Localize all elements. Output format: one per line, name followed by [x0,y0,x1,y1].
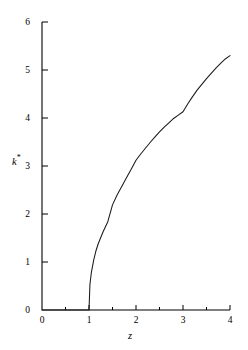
chart-figure: 6 5 4 3 2 1 0 0 1 2 3 4 k* z [0,0,248,350]
x-tick-label-0: 0 [34,315,50,325]
x-axis-title: z [128,330,132,341]
y-tick-label-5: 5 [14,65,30,75]
plot-canvas [0,0,248,350]
y-tick-label-2: 2 [14,209,30,219]
y-tick-label-4: 4 [14,113,30,123]
data-curve-k-star [42,56,230,310]
y-tick-label-1: 1 [14,257,30,267]
y-axis-title: k* [12,152,21,167]
y-axis-ticks [42,22,48,262]
x-tick-label-3: 3 [175,315,191,325]
x-tick-label-4: 4 [222,315,238,325]
y-axis-title-sup: * [17,153,21,162]
x-tick-label-1: 1 [81,315,97,325]
x-tick-label-2: 2 [128,315,144,325]
y-tick-label-0: 0 [14,305,30,315]
y-tick-label-6: 6 [14,17,30,27]
